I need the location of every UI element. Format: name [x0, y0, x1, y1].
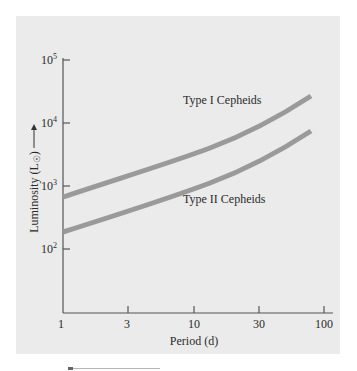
type-i-cepheids-curve	[63, 96, 311, 197]
y-ticks	[63, 60, 70, 249]
x-axis-title: Period (d)	[170, 334, 218, 348]
type-ii-cepheids-curve	[63, 131, 311, 232]
x-tick-label-10: 10	[188, 317, 200, 331]
x-tick-label-100: 100	[315, 317, 333, 331]
y-axis-title: Luminosity (L☉)	[27, 124, 42, 233]
x-tick-label-3: 3	[124, 317, 130, 331]
type-i-label: Type I Cepheids	[183, 93, 262, 107]
y-tick-label-1e3: 103	[41, 178, 57, 193]
y-tick-label-1e4: 104	[41, 115, 57, 130]
x-tick-label-30: 30	[253, 317, 265, 331]
luminosity-period-chart: 105 104 103 102 1 3 10 30 100 Period (d)…	[0, 0, 357, 371]
y-tick-label-1e5: 105	[41, 52, 57, 67]
svg-text:Luminosity (L☉): Luminosity (L☉)	[27, 151, 42, 233]
type-ii-label: Type II Cepheids	[183, 192, 266, 206]
footer-rule	[68, 368, 160, 369]
y-tick-label-1e2: 102	[41, 241, 57, 256]
x-tick-label-1: 1	[58, 317, 64, 331]
x-ticks	[128, 306, 324, 313]
